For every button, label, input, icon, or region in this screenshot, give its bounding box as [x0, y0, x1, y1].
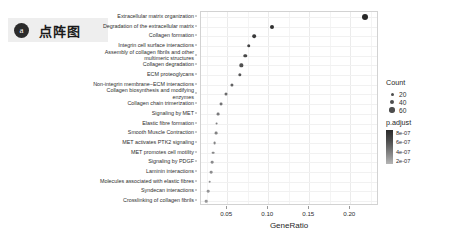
gradient-tick-mark: [393, 161, 395, 162]
y-axis-tick-mark: [195, 25, 197, 26]
data-point: [209, 171, 212, 174]
legend-padjust: p.adjust 8e-076e-074e-072e-07: [386, 118, 432, 164]
gridline-horizontal: [201, 153, 377, 154]
dotplot-figure: a 点阵图 Extracellular matrix organizationD…: [0, 0, 459, 249]
gridline-minor-vertical: [248, 12, 249, 204]
legend-size-dot: [389, 107, 394, 112]
legend-count-item: 20: [386, 90, 406, 98]
data-point: [216, 112, 219, 115]
gridline-horizontal: [201, 124, 377, 125]
legend-count-label: 20: [399, 91, 406, 98]
y-axis-tick-label: Collagen biosynthesis and modifying enzy…: [4, 87, 194, 99]
gridline-horizontal: [201, 46, 377, 47]
gridline-horizontal: [201, 172, 377, 173]
gridline-horizontal: [201, 162, 377, 163]
y-axis-tick-mark: [195, 74, 197, 75]
data-point: [205, 200, 208, 203]
gridline-horizontal: [201, 114, 377, 115]
data-point: [212, 151, 215, 154]
y-axis-tick-mark: [195, 122, 197, 123]
y-axis-tick-mark: [195, 103, 197, 104]
gradient-tick-label: 8e-07: [396, 130, 410, 136]
data-point: [215, 122, 218, 125]
y-axis-tick-mark: [195, 132, 197, 133]
legend-count-item: 60: [386, 106, 406, 114]
data-point: [208, 180, 211, 183]
legend-count-label: 40: [399, 99, 406, 106]
gridline-horizontal: [201, 133, 377, 134]
gridline-horizontal: [201, 143, 377, 144]
y-axis-tick-label: Signaling by MET: [4, 110, 194, 116]
y-axis-tick-label: Smooth Muscle Contraction: [4, 129, 194, 135]
y-axis-tick-label: Non-integrin membrane−ECM interactions: [4, 81, 194, 87]
y-axis-tick-label: ECM proteoglycans: [4, 71, 194, 77]
gridline-horizontal: [201, 56, 377, 57]
y-axis-tick-mark: [195, 112, 197, 113]
y-axis-tick-label: MET activates PTK2 signaling: [4, 139, 194, 145]
gradient-tick-mark: [393, 152, 395, 153]
y-axis-tick-label: Elastic fibre formation: [4, 119, 194, 125]
data-point: [252, 34, 256, 38]
y-axis-tick-mark: [195, 44, 197, 45]
gridline-major-vertical: [350, 12, 351, 204]
gridline-horizontal: [201, 182, 377, 183]
legend-size-dot: [391, 93, 394, 96]
legend-count-rows: 204060: [386, 90, 406, 114]
x-axis-title: GeneRatio: [200, 221, 378, 230]
color-gradient-bar: [386, 130, 393, 164]
gridline-minor-vertical: [289, 12, 290, 204]
gridline-horizontal: [201, 94, 377, 95]
y-axis-tick-label: Degradation of the extracellular matrix: [4, 22, 194, 28]
gridline-horizontal: [201, 104, 377, 105]
data-point: [211, 161, 214, 164]
y-axis-tick-label: Extracellular matrix organization: [4, 13, 194, 19]
y-axis-labels: Extracellular matrix organizationDegrada…: [0, 11, 197, 205]
y-axis-tick-mark: [195, 190, 197, 191]
data-point: [240, 64, 243, 67]
gradient-tick-label: 4e-07: [396, 149, 410, 155]
gradient-tick-label: 6e-07: [396, 139, 410, 145]
y-axis-tick-label: Integrin cell surface interactions: [4, 42, 194, 48]
data-point: [219, 103, 222, 106]
gridline-minor-vertical: [207, 12, 208, 204]
legend-count: Count 204060: [386, 78, 406, 114]
y-axis-tick-label: Collagen degradation: [4, 61, 194, 67]
y-axis-tick-label: MET promotes cell motility: [4, 149, 194, 155]
y-axis-tick-label: Collagen formation: [4, 32, 194, 38]
gridline-horizontal: [201, 191, 377, 192]
legend-padjust-gradient: 8e-076e-074e-072e-07: [386, 130, 432, 164]
gridline-minor-vertical: [330, 12, 331, 204]
y-axis-tick-mark: [195, 200, 197, 201]
gridline-horizontal: [201, 65, 377, 66]
x-axis-tick-label: 0.20: [343, 210, 355, 217]
gridline-horizontal: [201, 17, 377, 18]
data-point: [207, 190, 210, 193]
y-axis-tick-mark: [195, 171, 197, 172]
y-axis-tick-mark: [195, 35, 197, 36]
y-axis-tick-mark: [195, 151, 197, 152]
data-point: [213, 142, 216, 145]
x-axis-tick-mark: [226, 206, 227, 209]
gridline-horizontal: [201, 75, 377, 76]
y-axis-tick-mark: [195, 83, 197, 84]
legend-size-dot: [390, 100, 394, 104]
gridline-minor-vertical: [371, 12, 372, 204]
gridline-horizontal: [201, 85, 377, 86]
gradient-tick-mark: [393, 133, 395, 134]
x-axis-tick-label: 0.05: [220, 210, 232, 217]
y-axis-tick-label: Laminin interactions: [4, 168, 194, 174]
y-axis-tick-mark: [195, 15, 197, 16]
x-axis-tick-mark: [267, 206, 268, 209]
legend-dot-wrapper: [386, 100, 398, 104]
y-axis-tick-label: Syndecan interactions: [4, 187, 194, 193]
gradient-tick-label: 2e-07: [396, 158, 410, 164]
y-axis-tick-label: Signaling by PDGF: [4, 158, 194, 164]
gradient-tick-mark: [393, 142, 395, 143]
y-axis-tick-mark: [195, 161, 197, 162]
gridline-horizontal: [201, 27, 377, 28]
y-axis-tick-mark: [195, 64, 197, 65]
legend-padjust-title: p.adjust: [386, 118, 432, 127]
gridline-major-vertical: [309, 12, 310, 204]
gridline-major-vertical: [227, 12, 228, 204]
y-axis-tick-mark: [195, 141, 197, 142]
